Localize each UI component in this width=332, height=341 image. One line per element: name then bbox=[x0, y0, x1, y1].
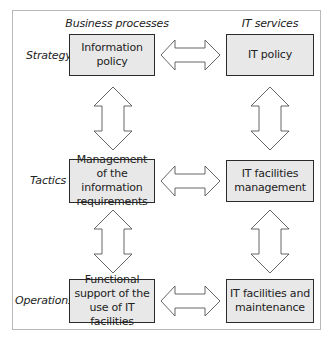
arrow-vertical-business-tactics-operations bbox=[94, 210, 132, 273]
arrow-horizontal-operations bbox=[161, 286, 220, 316]
arrow-horizontal-tactics bbox=[161, 166, 220, 196]
arrows-layer bbox=[0, 0, 332, 341]
arrow-vertical-it-strategy-tactics bbox=[251, 87, 289, 150]
arrow-horizontal-strategy bbox=[161, 40, 220, 70]
arrow-vertical-business-strategy-tactics bbox=[94, 87, 132, 150]
arrow-vertical-it-tactics-operations bbox=[251, 210, 289, 273]
